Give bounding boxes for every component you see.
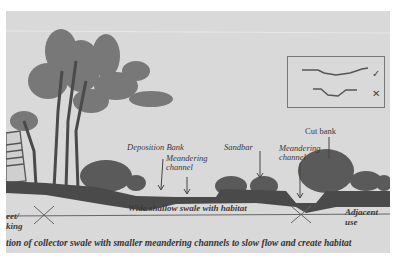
figure-caption: tion of collector swale with smaller mea… bbox=[6, 239, 351, 249]
label-adjacent-use: Adjacent use bbox=[345, 207, 378, 227]
label-line: king bbox=[6, 221, 23, 231]
wide-profile-icon bbox=[302, 68, 368, 75]
label-line: channel bbox=[279, 153, 321, 162]
label-swale: Wide shallow swale with habitat bbox=[128, 204, 247, 213]
label-line: channel bbox=[166, 163, 208, 172]
grade-line bbox=[6, 214, 390, 216]
label-deposition-bank: Deposition Bank bbox=[127, 143, 184, 152]
narrow-profile-icon bbox=[313, 89, 357, 96]
legend-box: ✓ ✕ bbox=[287, 56, 385, 108]
label-sandbar: Sandbar bbox=[224, 143, 253, 152]
shrub-icon bbox=[80, 149, 390, 196]
label-line: eet/ bbox=[6, 211, 23, 221]
label-line: use bbox=[345, 217, 378, 227]
label-line: Adjacent bbox=[345, 207, 378, 217]
label-meandering-channel-left: Meandering channel bbox=[166, 154, 208, 172]
label-meandering-channel-right: Meandering channel bbox=[279, 144, 321, 162]
building-icon bbox=[6, 131, 26, 183]
x-mark-icon: ✕ bbox=[372, 89, 380, 99]
diagram-sheet: ✓ ✕ Deposition Bank Meandering channel S… bbox=[6, 11, 390, 253]
label-street-parking: eet/ king bbox=[6, 211, 23, 231]
checkmark-icon: ✓ bbox=[372, 69, 380, 79]
legend-profiles bbox=[288, 57, 384, 107]
tree-icon bbox=[10, 29, 173, 131]
label-cut-bank: Cut bank bbox=[305, 127, 336, 136]
